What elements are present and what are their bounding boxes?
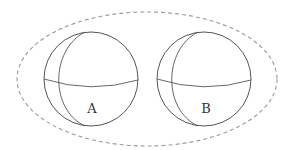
sphere-b-label: B bbox=[201, 101, 211, 116]
sphere-a-label: A bbox=[86, 101, 97, 116]
sphere-b: B bbox=[157, 32, 251, 126]
sphere-a: A bbox=[44, 32, 138, 126]
diagram-canvas: A B bbox=[0, 0, 290, 150]
